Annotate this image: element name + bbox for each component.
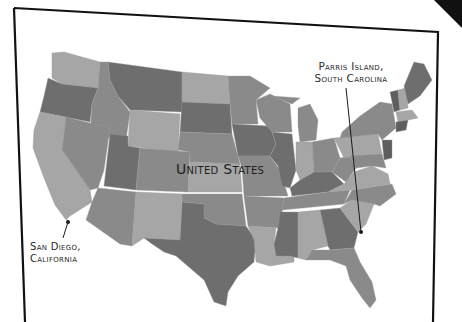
map-figure: Parris Island, South Carolina San Diego,…	[0, 0, 462, 322]
state-arizona	[86, 188, 136, 246]
state-new-jersey	[382, 140, 392, 160]
state-arkansas	[244, 196, 284, 228]
parris-island-label-line2: South Carolina	[301, 72, 401, 84]
state-connecticut	[396, 120, 408, 132]
state-new-mexico	[132, 192, 182, 246]
state-north-dakota	[182, 72, 230, 104]
parris-island-label: Parris Island, South Carolina	[301, 60, 401, 84]
parris-island-marker	[359, 230, 363, 234]
parris-island-label-line1: Parris Island,	[301, 60, 401, 72]
state-michigan	[298, 104, 318, 142]
state-maine	[404, 62, 432, 104]
country-label: United States	[176, 161, 264, 177]
san-diego-label-line1: San Diego,	[30, 241, 81, 253]
state-florida	[306, 248, 376, 308]
san-diego-leader-line	[63, 222, 68, 238]
state-maryland	[350, 154, 386, 168]
states	[33, 52, 432, 308]
state-south-dakota	[180, 102, 232, 134]
san-diego-label-line2: California	[30, 253, 81, 265]
san-diego-marker	[66, 220, 70, 224]
san-diego-label: San Diego, California	[30, 241, 81, 264]
state-wyoming	[128, 110, 180, 152]
